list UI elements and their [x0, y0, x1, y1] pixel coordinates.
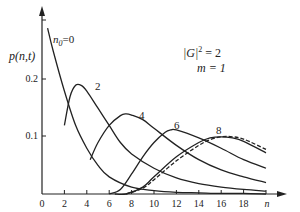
x-tick-0: 0: [40, 199, 45, 209]
x-axis-arrow-icon: [277, 191, 287, 197]
y-axis-label: p(n,t): [9, 50, 35, 62]
x-tick-18: 18: [239, 199, 249, 209]
curve-8-dashed-: [126, 136, 266, 194]
param-m: m = 1: [197, 62, 226, 74]
x-tick-16: 16: [216, 199, 226, 209]
y-tick-0.2: 0.2: [12, 74, 38, 84]
chart-plot: [0, 0, 300, 212]
n0-label-eq: =0: [63, 33, 75, 45]
y-axis-arrow-icon: [39, 6, 45, 16]
axes: [42, 12, 280, 194]
x-tick-12: 12: [171, 199, 181, 209]
x-tick-2: 2: [62, 199, 67, 209]
curve-label-8: 8: [216, 125, 222, 136]
x-axis-label: n: [265, 199, 270, 209]
x-tick-4: 4: [84, 199, 89, 209]
curve-label-6: 6: [174, 120, 180, 131]
n0-label: n0=0: [53, 34, 74, 48]
x-tick-10: 10: [149, 199, 159, 209]
curve-label-2: 2: [95, 81, 101, 92]
x-tick-6: 6: [107, 199, 112, 209]
param-g-value: = 2: [202, 46, 221, 60]
x-tick-14: 14: [194, 199, 204, 209]
param-g: |G|2 = 2: [183, 46, 221, 59]
y-tick-0.1: 0.1: [12, 131, 38, 141]
param-g-symbol: |G|: [183, 46, 198, 60]
x-tick-8: 8: [129, 199, 134, 209]
curve-label-4: 4: [139, 110, 145, 121]
